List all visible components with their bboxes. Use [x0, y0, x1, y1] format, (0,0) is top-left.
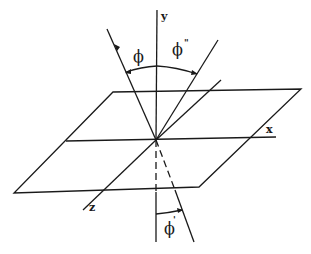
- refracted-ray: [175, 190, 194, 242]
- reflected-angle-arc: [157, 66, 197, 74]
- reflected-angle-label: ϕ: [172, 40, 183, 59]
- incident-angle-label: ϕ: [133, 47, 144, 66]
- y-axis-label: y: [160, 10, 168, 23]
- refracted-ray-hidden-segment: [156, 140, 175, 190]
- reflected-angle-superscript: ": [184, 38, 189, 48]
- interface-plane: [14, 89, 301, 193]
- x-axis-label: x: [266, 123, 273, 136]
- y-axis: [156, 10, 157, 140]
- incidence-diagram: x y z ϕ ϕ " ϕ ': [0, 0, 311, 254]
- x-axis: [66, 137, 276, 141]
- z-axis-label: z: [89, 201, 95, 214]
- z-axis: [83, 140, 156, 210]
- z-axis-back: [156, 80, 221, 140]
- refracted-angle-superscript: ': [173, 215, 176, 225]
- incident-ray: [107, 29, 156, 140]
